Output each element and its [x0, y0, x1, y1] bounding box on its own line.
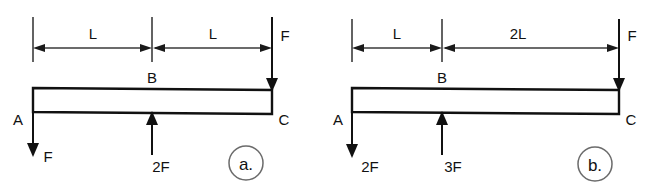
beam-diagram-figure: L L A B C F 2F F a.	[0, 0, 649, 189]
diagram-a: L L A B C F 2F F a.	[13, 17, 290, 180]
dimension-arrowhead-b-right-start	[443, 44, 455, 52]
beam-a	[33, 88, 272, 114]
force-label-b-right: F	[627, 27, 636, 44]
dimension-arrowhead-a-left-end	[140, 44, 152, 52]
dimension-arrowhead-a-right-end	[260, 44, 272, 52]
dimension-label-b-2: 2L	[510, 25, 527, 42]
dimension-arrowhead-a-left-start	[33, 44, 45, 52]
dimension-arrowhead-a-right-start	[153, 44, 165, 52]
diagram-b: L 2L A B C 2F 3F F	[333, 19, 637, 181]
caption-label-a: a.	[239, 155, 253, 174]
node-label-b-middle: B	[437, 69, 447, 86]
force-label-a-middle: 2F	[152, 158, 170, 175]
force-label-a-right: F	[280, 27, 289, 44]
node-label-a-right: C	[279, 111, 290, 128]
node-label-a-middle: B	[147, 69, 157, 86]
beam-b	[352, 88, 619, 114]
dimension-label-a-1: L	[89, 25, 97, 42]
dimension-label-a-2: L	[209, 25, 217, 42]
force-arrowhead-a-left	[27, 143, 39, 157]
node-label-b-right: C	[626, 111, 637, 128]
force-label-b-left: 2F	[361, 158, 379, 175]
node-label-a-left: A	[13, 111, 23, 128]
dimension-arrowhead-b-left-end	[430, 44, 442, 52]
dimension-arrowhead-b-right-end	[607, 44, 619, 52]
dimension-arrowhead-b-left-start	[352, 44, 364, 52]
force-label-a-left: F	[43, 148, 52, 165]
force-label-b-middle: 3F	[444, 158, 462, 175]
node-label-b-left: A	[333, 111, 343, 128]
caption-label-b: b.	[588, 156, 602, 175]
figure-canvas: L L A B C F 2F F a.	[0, 0, 649, 189]
dimension-label-b-1: L	[393, 25, 401, 42]
force-arrowhead-b-left	[346, 144, 358, 158]
